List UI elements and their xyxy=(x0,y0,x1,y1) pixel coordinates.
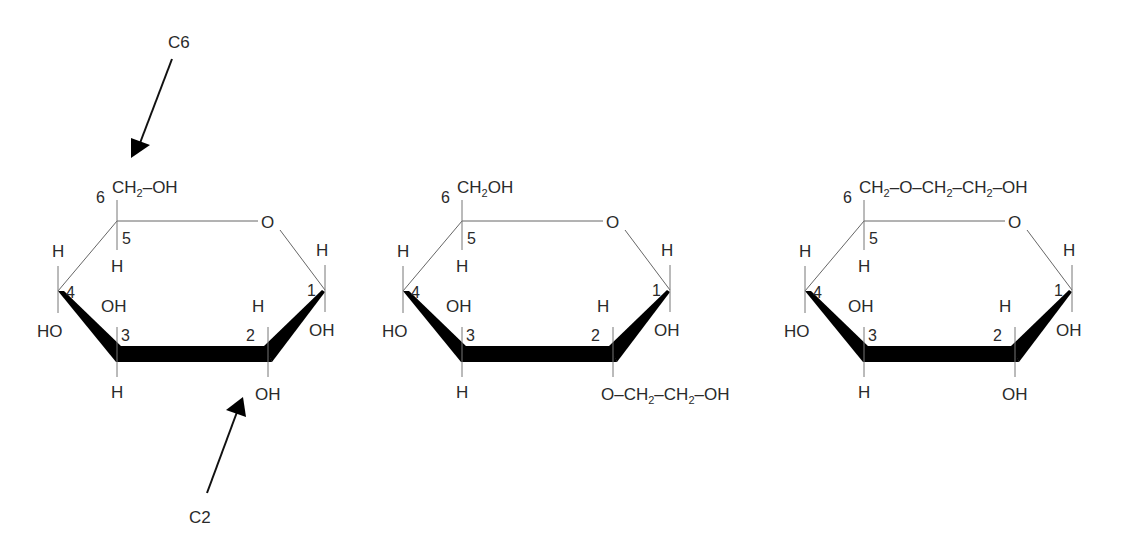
carbon-number-4: 4 xyxy=(411,284,420,301)
c2-bottom-oh: OH xyxy=(1002,385,1028,404)
c6-substituent: CH2–OH xyxy=(112,178,178,199)
bond-c5-c4 xyxy=(58,221,117,291)
c4-top-h: H xyxy=(799,242,811,261)
c4-top-h: H xyxy=(52,242,64,261)
ring-oxygen: O xyxy=(261,213,274,232)
c2-annotation: C2 xyxy=(189,397,246,527)
c1-bottom-oh: OH xyxy=(1056,321,1082,340)
carbon-number-6: 6 xyxy=(96,189,105,206)
bond-o-c1 xyxy=(280,230,325,290)
carbon-number-3: 3 xyxy=(121,327,130,344)
c1-bottom-oh: OH xyxy=(309,321,335,340)
c5-bottom-h: H xyxy=(111,257,123,276)
diagram-canvas: 6 CH2–OH O 5 H H 4 HO OH 3 H H 2 OH H 1 … xyxy=(0,0,1123,550)
c1-bottom-oh: OH xyxy=(654,321,680,340)
c2-top-h: H xyxy=(597,297,609,316)
carbon-number-1: 1 xyxy=(1054,282,1063,299)
c4-bottom-ho: HO xyxy=(382,322,408,341)
carbon-number-3: 3 xyxy=(466,327,475,344)
c3-bottom-h: H xyxy=(858,383,870,402)
c3-top-oh: OH xyxy=(446,297,472,316)
carbon-number-4: 4 xyxy=(66,284,75,301)
c2-top-h: H xyxy=(999,297,1011,316)
bond-o-c1 xyxy=(1027,230,1072,290)
c3-bottom-h: H xyxy=(456,383,468,402)
ring-2-o-hydroxyethyl-glucose: 6 CH2OH O 5 H H 4 HO OH 3 H H 2 O–CH2–CH… xyxy=(382,178,729,406)
c2-bottom-oh: OH xyxy=(255,385,281,404)
carbon-number-3: 3 xyxy=(868,327,877,344)
carbon-number-1: 1 xyxy=(307,282,316,299)
bond-c3-c2-bold xyxy=(863,346,1019,362)
c2-arrow-shaft xyxy=(207,412,237,493)
c5-bottom-h: H xyxy=(456,257,468,276)
c3-top-oh: OH xyxy=(848,297,874,316)
c1-top-h: H xyxy=(1063,241,1075,260)
carbon-number-6: 6 xyxy=(441,189,450,206)
c6-arrow-shaft xyxy=(140,59,172,143)
c2-bottom-hydroxyethoxy: O–CH2–CH2–OH xyxy=(601,385,729,406)
c5-bottom-h: H xyxy=(858,257,870,276)
c3-top-oh: OH xyxy=(101,297,127,316)
carbon-number-5: 5 xyxy=(869,230,878,247)
c4-bottom-ho: HO xyxy=(37,322,63,341)
carbon-number-4: 4 xyxy=(813,284,822,301)
c2-top-h: H xyxy=(252,297,264,316)
carbon-number-1: 1 xyxy=(652,282,661,299)
c1-top-h: H xyxy=(316,241,328,260)
ring-6-o-hydroxyethyl-glucose: 6 CH2–O–CH2–CH2–OH O 5 H H 4 HO OH 3 H H… xyxy=(784,178,1082,404)
ring-oxygen: O xyxy=(1008,213,1021,232)
c6-substituent-hydroxyethoxymethyl: CH2–O–CH2–CH2–OH xyxy=(859,178,1028,199)
bond-c3-c2-bold xyxy=(116,346,272,362)
ring-unsubstituted-glucose: 6 CH2–OH O 5 H H 4 HO OH 3 H H 2 OH H 1 … xyxy=(37,178,335,404)
c2-arrow-label: C2 xyxy=(189,508,211,527)
bond-c5-c4 xyxy=(403,221,462,291)
c1-top-h: H xyxy=(661,241,673,260)
carbon-number-2: 2 xyxy=(591,327,600,344)
bond-c3-c2-bold xyxy=(461,346,617,362)
bond-o-c1 xyxy=(625,230,670,290)
bond-c5-c4 xyxy=(805,221,864,291)
c3-bottom-h: H xyxy=(111,383,123,402)
carbon-number-2: 2 xyxy=(993,327,1002,344)
ring-oxygen: O xyxy=(606,213,619,232)
c4-bottom-ho: HO xyxy=(784,322,810,341)
c6-annotation: C6 xyxy=(131,33,190,158)
c6-arrow-label: C6 xyxy=(168,33,190,52)
carbon-number-2: 2 xyxy=(246,327,255,344)
c4-top-h: H xyxy=(397,242,409,261)
c6-substituent: CH2OH xyxy=(457,178,513,199)
carbon-number-6: 6 xyxy=(843,189,852,206)
carbon-number-5: 5 xyxy=(122,230,131,247)
carbon-number-5: 5 xyxy=(467,230,476,247)
